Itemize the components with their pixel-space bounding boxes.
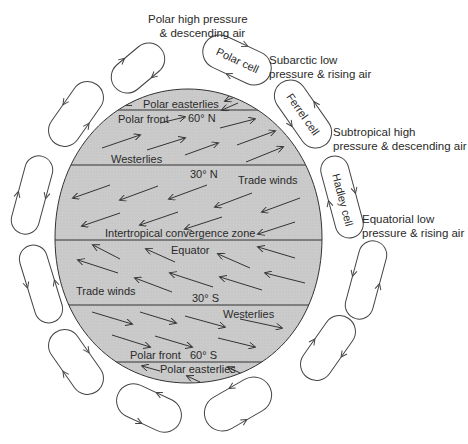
label-polar-front-s: Polar front xyxy=(130,349,181,361)
label-line: pressure & descending air xyxy=(333,139,467,153)
label-polar-high-pressure: Polar high pressure & descending air xyxy=(148,12,248,40)
label-60s: 60° S xyxy=(190,349,217,361)
label-trade-winds-n: Trade winds xyxy=(238,174,298,186)
label-subtropical-high-pressure: Subtropical high pressure & descending a… xyxy=(333,125,467,153)
label-line: pressure & rising air xyxy=(362,226,464,240)
label-line: Polar high pressure xyxy=(148,12,248,26)
label-line: pressure & rising air xyxy=(269,67,371,81)
cell-loop-icon xyxy=(339,237,393,323)
label-60n: 60° N xyxy=(188,112,216,124)
cell-loop-icon xyxy=(292,308,364,389)
label-trade-winds-s: Trade winds xyxy=(76,285,136,297)
label-itcz: Intertropical convergence zone xyxy=(105,227,255,239)
label-polar-easterlies-n: Polar easterlies xyxy=(143,98,219,110)
globe: Polar easterlies Polar front 60° N Weste… xyxy=(40,89,340,383)
label-equatorial-low-pressure: Equatorial low pressure & rising air xyxy=(362,212,464,240)
label-equator: Equator xyxy=(171,244,210,256)
label-line: Equatorial low xyxy=(362,212,464,226)
label-westerlies-n: Westerlies xyxy=(111,153,163,165)
label-line: Subarctic low xyxy=(269,53,371,67)
cell-loop-icon xyxy=(5,152,59,238)
label-westerlies-s: Westerlies xyxy=(223,308,275,320)
label-line: Subtropical high xyxy=(333,125,467,139)
cell-loop-icon xyxy=(110,376,189,441)
label-polar-easterlies-s: Polar easterlies xyxy=(160,363,236,375)
label-30s: 30° S xyxy=(192,292,219,304)
label-30n: 30° N xyxy=(190,168,218,180)
label-line: & descending air xyxy=(148,26,248,40)
label-polar-front-n: Polar front xyxy=(118,113,169,125)
label-subarctic-low-pressure: Subarctic low pressure & rising air xyxy=(269,53,371,81)
